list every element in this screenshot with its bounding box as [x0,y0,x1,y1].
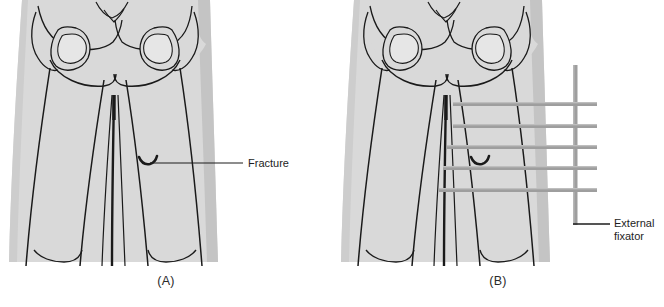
panel-a: Fracture (A) [0,0,332,307]
anatomy-illustration-b [332,0,664,307]
panel-b-label: (B) [332,274,664,288]
anatomy-group-a [9,0,218,268]
external-fixator-label: External fixator [614,217,654,242]
panel-b: External fixator (B) [332,0,664,307]
figure-container: Fracture (A) [0,0,664,307]
panel-a-label: (A) [0,274,332,288]
anatomy-group-b [341,0,550,268]
fracture-label: Fracture [248,157,289,170]
anatomy-illustration-a [0,0,332,307]
